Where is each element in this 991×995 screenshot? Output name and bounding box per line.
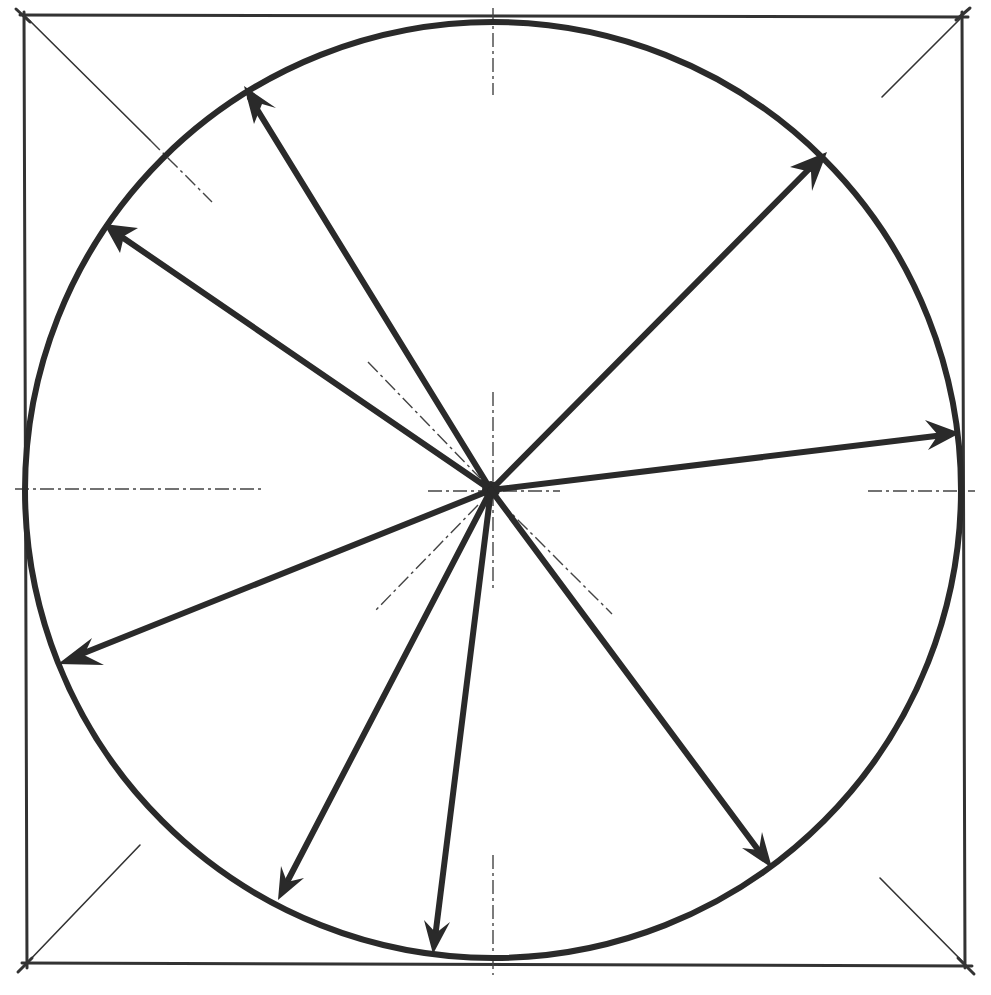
arrow-bottom-right <box>491 490 772 868</box>
arrow-upper-left <box>104 224 491 490</box>
arrow-right <box>491 420 960 490</box>
diagram-canvas: Circle inscribed in a square with radii … <box>0 0 991 995</box>
diagram-svg <box>0 0 991 995</box>
arrow-upper-right <box>491 152 827 490</box>
arrow-bottom-left <box>278 490 491 900</box>
arrow-upper-left-steep <box>244 86 491 490</box>
arrow-lower-left <box>58 490 491 665</box>
